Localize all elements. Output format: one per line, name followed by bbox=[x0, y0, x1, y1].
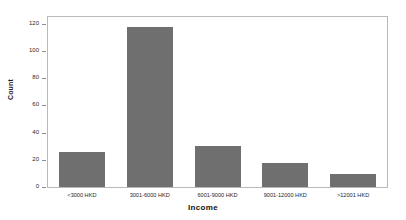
y-axis-tick-label: 20 bbox=[32, 155, 39, 163]
bar bbox=[330, 174, 376, 187]
y-axis-tick-mark bbox=[42, 160, 46, 161]
bar bbox=[262, 163, 308, 187]
y-axis-tick: 80 bbox=[0, 78, 46, 79]
y-axis-tick-mark bbox=[42, 187, 46, 188]
chart-screenshot: Count 020406080100120 <3000 HKD3001-6000… bbox=[0, 0, 406, 220]
y-axis-tick: 60 bbox=[0, 105, 46, 106]
y-axis-tick-label: 120 bbox=[29, 19, 39, 27]
x-axis-tick-label: <3000 HKD bbox=[48, 191, 116, 199]
y-axis-tick-label: 60 bbox=[32, 100, 39, 108]
y-axis-tick-mark bbox=[42, 24, 46, 25]
y-axis-tick-label: 100 bbox=[29, 46, 39, 54]
y-axis-tick: 40 bbox=[0, 133, 46, 134]
y-axis-tick: 0 bbox=[0, 187, 46, 188]
y-axis-tick-label: 0 bbox=[36, 182, 39, 190]
y-axis-tick: 20 bbox=[0, 160, 46, 161]
bar bbox=[127, 27, 173, 187]
x-axis-tick-label: >12001 HKD bbox=[319, 191, 387, 199]
y-axis-tick-label: 40 bbox=[32, 128, 39, 136]
y-axis-tick: 120 bbox=[0, 24, 46, 25]
x-axis-title: Income bbox=[0, 203, 406, 212]
y-axis-tick-mark bbox=[42, 133, 46, 134]
y-axis-tick-mark bbox=[42, 78, 46, 79]
bar bbox=[195, 146, 241, 187]
y-axis-tick-label: 80 bbox=[32, 73, 39, 81]
bar bbox=[59, 152, 105, 187]
y-axis-tick-mark bbox=[42, 105, 46, 106]
x-axis-tick-label: 9001-12000 HKD bbox=[251, 191, 319, 199]
x-axis-tick-label: 6001-9000 HKD bbox=[184, 191, 252, 199]
y-axis-tick: 100 bbox=[0, 51, 46, 52]
plot-area bbox=[48, 17, 387, 187]
y-axis-tick-mark bbox=[42, 51, 46, 52]
x-axis-tick-label: 3001-6000 HKD bbox=[116, 191, 184, 199]
